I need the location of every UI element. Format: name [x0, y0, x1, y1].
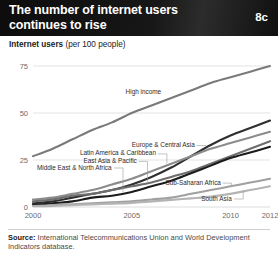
y-tick-label: 25	[10, 156, 28, 165]
series-label: South Asia	[201, 195, 232, 202]
figure-panel: The number of internet users continues t…	[0, 0, 278, 253]
y-axis-title-bold: Internet users	[9, 40, 63, 49]
series-label: Latin America & Caribbean	[80, 149, 156, 156]
page-title: The number of internet users continues t…	[9, 3, 224, 32]
series-label: Sub-Saharan Africa	[165, 179, 220, 186]
x-tick-label: 2010	[216, 211, 246, 220]
source-text: International Telecommunications Union a…	[8, 233, 250, 251]
title-line-1: The number of internet users	[9, 3, 178, 17]
y-tick-label: 75	[10, 62, 28, 71]
source-note: Source: International Telecommunications…	[8, 233, 274, 252]
x-tick-label: 2005	[117, 211, 147, 220]
label-leader-line	[223, 183, 232, 185]
x-tick-label: 2012	[255, 211, 278, 220]
series-paths-group	[33, 66, 270, 206]
chart-plot-area: 0255075 2000200520102012 High incomeEuro…	[0, 55, 278, 220]
series-label: High income	[126, 88, 162, 95]
y-axis-title: Internet users (per 100 people)	[9, 40, 126, 49]
x-tick-label: 2000	[18, 211, 48, 220]
y-axis-title-unit: (per 100 people)	[63, 40, 125, 49]
footer-divider	[8, 229, 270, 230]
series-line	[33, 121, 270, 204]
y-tick-label: 50	[10, 109, 28, 118]
title-line-2: continues to rise	[9, 18, 224, 33]
label-leader-line	[158, 154, 167, 164]
series-label: Middle East & North Africa	[37, 164, 112, 171]
series-label: Europe & Central Asia	[132, 141, 195, 148]
label-leader-line	[197, 145, 206, 146]
line-chart-svg	[0, 55, 278, 220]
header-banner: The number of internet users continues t…	[0, 0, 278, 36]
figure-number-badge: 8c	[255, 11, 268, 23]
source-label: Source:	[8, 233, 36, 242]
